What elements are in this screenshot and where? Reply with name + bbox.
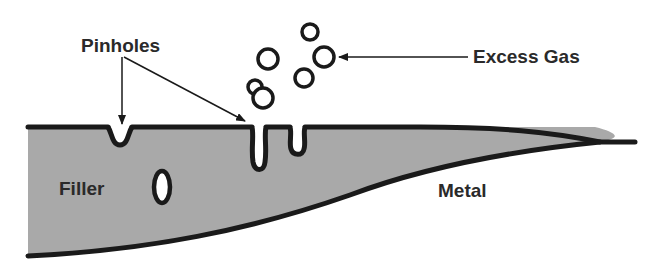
pinhole-medium (290, 127, 305, 154)
gas-bubble (302, 24, 318, 40)
excess-gas-label: Excess Gas (473, 46, 580, 67)
pinhole-deep (252, 127, 266, 170)
gas-bubble (253, 88, 273, 108)
filler-label: Filler (59, 178, 105, 199)
pinholes-label: Pinholes (81, 35, 160, 56)
gas-bubble (258, 49, 278, 69)
gas-bubbles (248, 24, 334, 108)
internal-void (154, 171, 170, 203)
gas-bubble (314, 47, 334, 67)
pinholes-arrow-right (124, 57, 245, 121)
gas-bubble (295, 69, 313, 87)
weld-defect-diagram: Pinholes Excess Gas Filler Metal (0, 0, 670, 266)
metal-label: Metal (438, 180, 487, 201)
